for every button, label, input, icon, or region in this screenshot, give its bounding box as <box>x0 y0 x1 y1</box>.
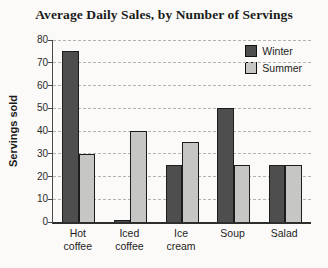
bar-winter-iced-coffee <box>114 220 131 222</box>
y-tick-label-0: 0 <box>24 217 48 227</box>
x-category-label-hot-coffee: Hot coffee <box>50 227 106 252</box>
y-tick-mark-70 <box>48 62 52 63</box>
y-tick-mark-20 <box>48 176 52 177</box>
bar-winter-salad <box>269 165 286 222</box>
y-tick-label-50: 50 <box>24 103 48 113</box>
winter-swatch-icon <box>245 45 257 57</box>
bar-chart: Average Daily Sales, by Number of Servin… <box>0 0 328 268</box>
gridline-80 <box>53 40 311 41</box>
x-axis-category-labels: Hot coffeeIced coffeeIce creamSoupSalad <box>52 227 310 257</box>
legend-label-winter: Winter <box>262 46 292 57</box>
legend-item-winter: Winter <box>245 45 302 57</box>
bar-summer-soup <box>234 165 251 222</box>
x-category-label-salad: Salad <box>256 227 312 240</box>
gridline-70 <box>53 62 311 63</box>
bar-summer-ice-cream <box>182 142 199 222</box>
gridline-40 <box>53 131 311 132</box>
bar-summer-iced-coffee <box>130 131 147 222</box>
y-axis-tick-labels: 01020304050607080 <box>24 40 48 222</box>
bar-winter-soup <box>217 108 234 222</box>
plot-area: Winter Summer <box>52 40 311 224</box>
y-tick-mark-0 <box>48 222 52 223</box>
bar-winter-hot-coffee <box>62 51 79 222</box>
y-tick-mark-40 <box>48 131 52 132</box>
y-axis-label: Servings sold <box>7 91 19 171</box>
y-tick-label-30: 30 <box>24 149 48 159</box>
y-tick-mark-60 <box>48 85 52 86</box>
y-tick-label-40: 40 <box>24 126 48 136</box>
y-tick-label-70: 70 <box>24 58 48 68</box>
x-category-label-iced-coffee: Iced coffee <box>101 227 157 252</box>
y-tick-label-60: 60 <box>24 81 48 91</box>
x-category-label-ice-cream: Ice cream <box>153 227 209 252</box>
legend-item-summer: Summer <box>245 62 302 74</box>
x-category-label-soup: Soup <box>205 227 261 240</box>
gridline-50 <box>53 108 311 109</box>
y-tick-label-20: 20 <box>24 172 48 182</box>
y-tick-mark-50 <box>48 108 52 109</box>
gridline-60 <box>53 85 311 86</box>
bar-summer-salad <box>285 165 302 222</box>
chart-title: Average Daily Sales, by Number of Servin… <box>0 7 328 23</box>
y-tick-label-10: 10 <box>24 194 48 204</box>
bar-summer-hot-coffee <box>79 154 96 222</box>
summer-swatch-icon <box>245 62 257 74</box>
y-tick-mark-30 <box>48 153 52 154</box>
y-tick-mark-80 <box>48 40 52 41</box>
legend-label-summer: Summer <box>262 63 302 74</box>
y-tick-label-80: 80 <box>24 35 48 45</box>
bar-winter-ice-cream <box>166 165 183 222</box>
y-tick-mark-10 <box>48 199 52 200</box>
